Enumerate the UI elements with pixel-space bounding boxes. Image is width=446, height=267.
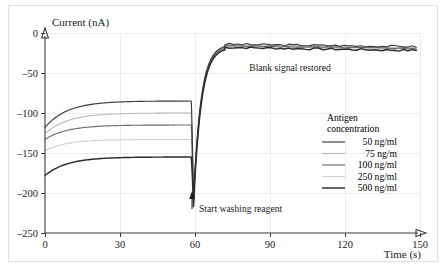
- legend-title-line2: concentration: [327, 123, 379, 134]
- x-tick-label: 0: [42, 239, 47, 250]
- legend-label-50-ng-ml: 50 ng/ml: [363, 136, 398, 147]
- y-tick-label: –250: [16, 228, 38, 239]
- y-tick-label: –50: [21, 68, 38, 79]
- legend-entries: 50 ng/ml75 ng/m100 ng/ml250 ng/ml500 ng/…: [322, 136, 398, 193]
- amperometric-plot: 0–50–100–150–200–250 0306090120150 Curre…: [0, 0, 446, 267]
- x-tick-label: 90: [265, 239, 276, 250]
- y-tick-label: 0: [33, 28, 38, 39]
- x-tick-label: 30: [115, 239, 126, 250]
- y-tick-label: –100: [16, 108, 38, 119]
- annotation-blank-signal-restored: Blank signal restored: [249, 62, 331, 73]
- legend-title-line1: Antigen: [327, 112, 358, 123]
- x-tick-label: 60: [190, 239, 201, 250]
- y-tick-label: –200: [16, 188, 38, 199]
- x-tick-labels: 0306090120150: [42, 239, 428, 250]
- legend-label-500-ng-ml: 500 ng/ml: [358, 182, 398, 193]
- annotation-start-washing-reagent: Start washing reagent: [199, 203, 282, 214]
- x-tick-label: 120: [337, 239, 353, 250]
- y-tick-labels: 0–50–100–150–200–250: [16, 28, 38, 239]
- legend-label-100-ng-ml: 100 ng/ml: [358, 159, 398, 170]
- y-tick-label: –150: [16, 148, 38, 159]
- x-axis-title: Time (s): [384, 248, 422, 261]
- y-axis-title: Current (nA): [52, 16, 109, 29]
- chart-figure: 0–50–100–150–200–250 0306090120150 Curre…: [0, 0, 446, 267]
- legend-label-250-ng-ml: 250 ng/ml: [358, 171, 398, 182]
- legend-label-75-ng-m: 75 ng/m: [365, 148, 397, 159]
